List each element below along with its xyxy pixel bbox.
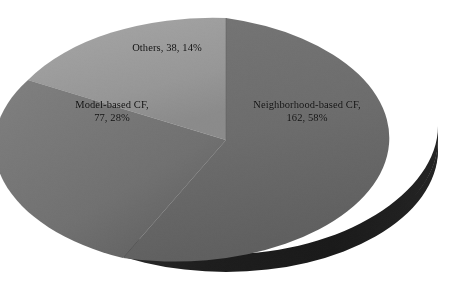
- scan-grain-overlay: [0, 0, 452, 282]
- pie-chart-figure: Neighborhood-based CF, 162, 58% Model-ba…: [0, 0, 452, 282]
- pie-label-others-line1: Others, 38, 14%: [108, 41, 226, 54]
- pie-chart-svg: [0, 0, 452, 282]
- pie-label-neighborhood-based-cf: Neighborhood-based CF, 162, 58%: [232, 98, 382, 124]
- pie-label-model-based-cf: Model-based CF, 77, 28%: [48, 98, 176, 124]
- pie-label-others: Others, 38, 14%: [108, 41, 226, 54]
- pie-label-neighborhood-line1: Neighborhood-based CF,: [232, 98, 382, 111]
- pie-label-model-line1: Model-based CF,: [48, 98, 176, 111]
- pie-label-model-line2: 77, 28%: [48, 111, 176, 124]
- pie-label-neighborhood-line2: 162, 58%: [232, 111, 382, 124]
